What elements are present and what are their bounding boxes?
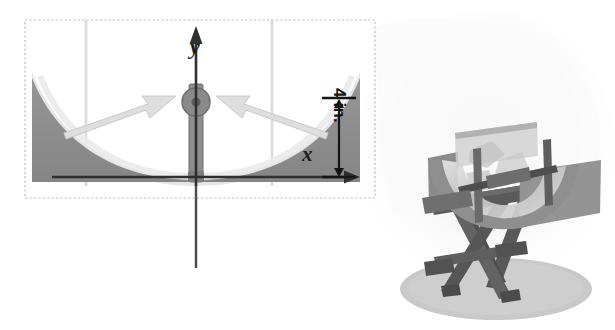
- x-axis-label: x: [302, 142, 313, 167]
- ray-arrow-left: [64, 96, 176, 139]
- stand-foot-rear: [441, 284, 461, 297]
- figure-root: y x 4 in.: [0, 0, 615, 330]
- y-axis-label: y: [190, 34, 200, 60]
- dimension-label-4in: 4 in.: [327, 88, 349, 164]
